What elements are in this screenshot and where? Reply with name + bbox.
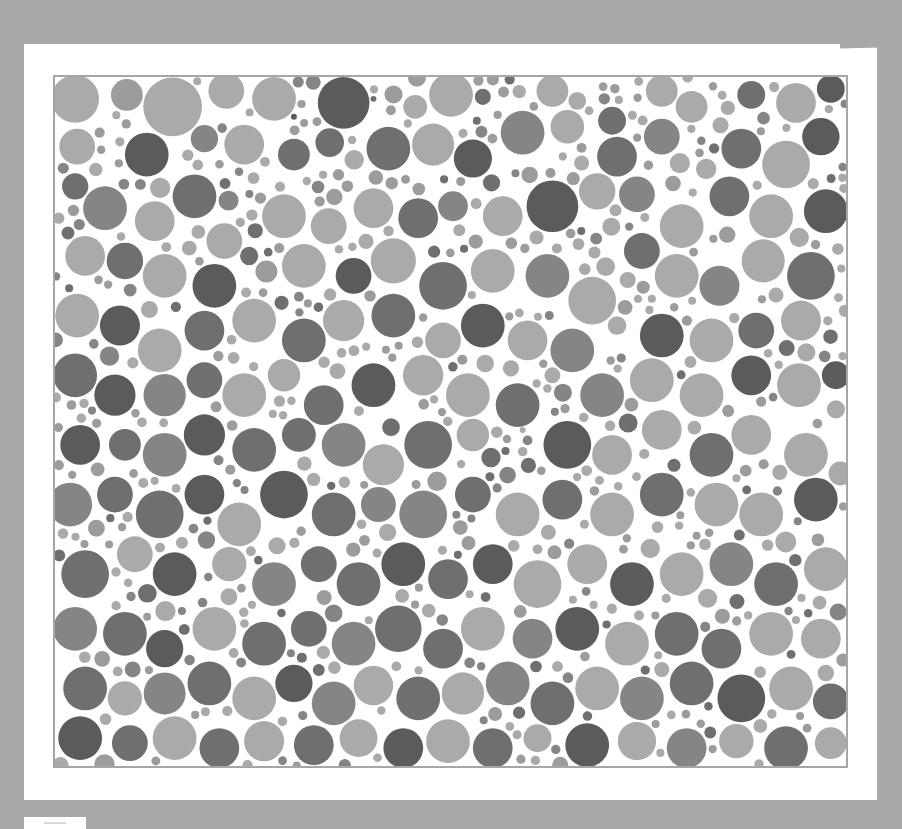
plate-dot [264, 248, 273, 257]
plate-dot [337, 562, 381, 606]
plate-dot [375, 605, 422, 652]
plate-dot [297, 456, 311, 470]
plate-dot [306, 77, 321, 90]
plate-dot [324, 288, 336, 300]
plate-dot [117, 232, 126, 241]
plate-dot [274, 396, 285, 407]
plate-dot [260, 471, 308, 519]
plate-dot [395, 342, 403, 350]
plate-dot [362, 343, 370, 351]
plate-dot [427, 472, 446, 491]
plate-dot [792, 616, 800, 624]
plate-dot [709, 235, 717, 243]
plate-dot [567, 172, 580, 185]
plate-dot [122, 119, 131, 128]
plate-dot [709, 143, 719, 153]
plate-dot [233, 479, 241, 487]
plate-dot [646, 77, 678, 107]
plate-dot [660, 552, 704, 596]
plate-dot [108, 681, 142, 715]
plate-dot [58, 528, 68, 538]
plate-dot [122, 512, 132, 522]
plate-dot [330, 363, 346, 379]
plate-dot [709, 82, 717, 90]
plate-dot [111, 601, 120, 610]
plate-dot [615, 96, 623, 104]
plate-dot [764, 349, 773, 358]
plate-dot [248, 601, 256, 609]
plate-dot [453, 224, 465, 236]
plate-dot [94, 754, 114, 766]
plate-dot [227, 420, 238, 431]
plate-dot [794, 517, 802, 525]
plate-dot [74, 219, 85, 230]
plate-dot [676, 91, 708, 123]
plate-dot [129, 469, 138, 478]
plate-dot [506, 237, 518, 249]
plate-dot [713, 117, 729, 133]
plate-dot [278, 756, 287, 765]
plate-dot [769, 82, 779, 92]
plate-dot [369, 170, 384, 185]
plate-dot [456, 177, 465, 186]
plate-dot [67, 400, 77, 410]
plate-dot [717, 675, 765, 723]
plate-dot [777, 363, 821, 407]
plate-dot [704, 727, 716, 739]
plate-dot [670, 153, 690, 173]
plate-dot [236, 218, 245, 227]
plate-dot [682, 710, 691, 719]
plate-dot [161, 242, 171, 252]
plate-dot [312, 681, 356, 725]
plate-dot [585, 106, 594, 115]
plate-dot [648, 295, 656, 303]
plate-dot [97, 477, 133, 513]
plate-dot [109, 429, 141, 461]
plate-dot [637, 281, 650, 294]
plate-dot [301, 546, 337, 582]
plate-dot [412, 183, 425, 196]
plate-dot [95, 128, 105, 138]
plate-dot [135, 179, 146, 190]
plate-dot [511, 169, 519, 177]
plate-dot [690, 433, 734, 477]
plate-dot [325, 604, 343, 622]
plate-dot [58, 163, 69, 174]
plate-dot [268, 359, 300, 391]
plate-dot [246, 209, 257, 220]
plate-dot [738, 313, 774, 349]
plate-dot [313, 117, 322, 126]
plate-dot [606, 356, 614, 364]
plate-dot [153, 716, 197, 760]
plate-dot [192, 264, 236, 308]
plate-dot [749, 612, 793, 656]
plate-dot [838, 163, 846, 171]
plate-dot [89, 339, 99, 349]
plate-dot [818, 665, 835, 682]
plate-dot [88, 520, 105, 537]
plate-dot [236, 658, 246, 668]
plate-dot [379, 524, 396, 541]
plate-dot [294, 725, 334, 765]
plate-dot [232, 677, 276, 721]
plate-dot [475, 126, 487, 138]
plate-dot [781, 301, 821, 341]
plate-dot [756, 396, 766, 406]
plate-dot [762, 539, 773, 550]
plate-dot [317, 646, 330, 659]
plate-dot [830, 604, 846, 621]
plate-dot [340, 719, 378, 757]
plate-dot [823, 316, 832, 325]
plate-dot [124, 284, 137, 297]
plate-dot [135, 201, 175, 241]
plate-dot [516, 755, 525, 764]
plate-dot [739, 493, 783, 537]
plate-dot [454, 139, 492, 177]
plate-dot [214, 455, 224, 465]
plate-dot [481, 448, 500, 467]
plate-dot [652, 720, 660, 728]
plate-dot [104, 280, 112, 288]
plate-dot [193, 77, 201, 85]
plate-dot [94, 276, 103, 285]
plate-dot [255, 261, 277, 283]
